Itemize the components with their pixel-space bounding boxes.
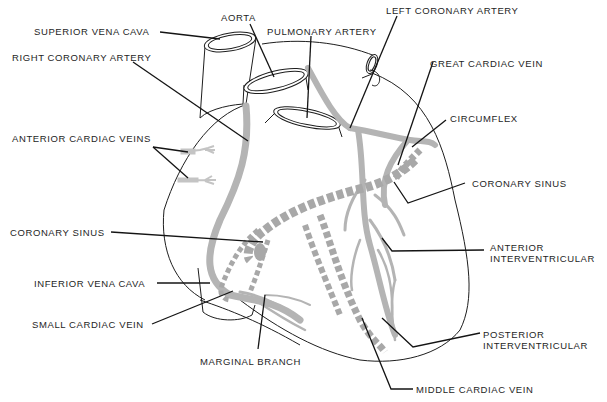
leader-superior-vena-cava	[160, 32, 220, 39]
label-circumflex: CIRCUMFLEX	[450, 113, 518, 124]
label-small-cardiac-vein: SMALL CARDIAC VEIN	[32, 319, 144, 330]
label-posterior-interventricular: POSTERIOR INTERVENTRICULAR	[483, 329, 588, 351]
label-inferior-vena-cava: INFERIOR VENA CAVA	[34, 278, 145, 289]
label-middle-cardiac-vein: MIDDLE CARDIAC VEIN	[416, 384, 534, 395]
label-superior-vena-cava: SUPERIOR VENA CAVA	[34, 26, 150, 37]
label-pulmonary-artery: PULMONARY ARTERY	[267, 26, 377, 37]
leader-coronary-sinus-left	[111, 232, 263, 242]
label-coronary-sinus-left: CORONARY SINUS	[10, 227, 105, 238]
label-coronary-sinus-right: CORONARY SINUS	[472, 178, 567, 189]
label-anterior-cardiac-veins: ANTERIOR CARDIAC VEINS	[12, 133, 151, 144]
label-marginal-branch: MARGINAL BRANCH	[200, 356, 301, 367]
coronary-sinus-ostium	[254, 243, 266, 261]
label-left-coronary-artery: LEFT CORONARY ARTERY	[386, 5, 519, 16]
label-line-2: INTERVENTRICULAR	[483, 340, 588, 351]
leader-great-cardiac-vein	[398, 62, 433, 165]
leader-right-coronary-artery	[133, 62, 248, 141]
leader-coronary-sinus-right	[394, 182, 465, 203]
leader-posterior-interventricular	[382, 318, 480, 347]
label-right-coronary-artery: RIGHT CORONARY ARTERY	[12, 52, 151, 63]
label-line-2: INTERVENTRICULAR	[490, 253, 595, 264]
label-line-1: ANTERIOR	[490, 242, 595, 253]
aorta-shape	[242, 63, 311, 104]
leader-middle-cardiac-vein	[362, 318, 413, 389]
heart-diagram: SUPERIOR VENA CAVA AORTA PULMONARY ARTER…	[0, 0, 607, 402]
label-aorta: AORTA	[221, 12, 256, 23]
pulmonary-vein-stub	[362, 53, 380, 86]
label-line-1: POSTERIOR	[483, 329, 588, 340]
label-anterior-interventricular: ANTERIOR INTERVENTRICULAR	[490, 242, 595, 264]
leader-anterior-interventricular	[382, 238, 484, 251]
label-great-cardiac-vein: GREAT CARDIAC VEIN	[430, 58, 543, 69]
